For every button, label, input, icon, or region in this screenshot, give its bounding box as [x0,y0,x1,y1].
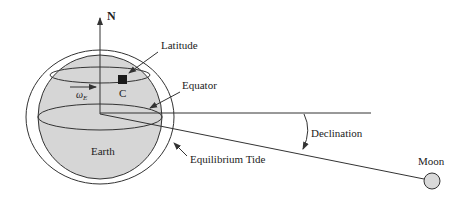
omega-subscript: E [82,94,88,102]
point-c-marker [118,75,127,84]
earth-label: Earth [91,145,115,157]
point-c-label: C [119,87,126,99]
moon [424,173,440,189]
latitude-label: Latitude [161,39,198,51]
tide-diagram: N Declination C ωE Latitude Equator Eart… [0,0,463,204]
north-label: N [107,9,116,23]
omega-symbol: ω [76,89,83,100]
declination-label: Declination [311,127,363,139]
declination-arc [303,114,308,149]
equilibrium-tide-pointer [174,143,187,156]
equator-label: Equator [182,79,217,91]
equilibrium-tide-label: Equilibrium Tide [190,153,266,165]
latitude-pointer [129,52,158,73]
moon-label: Moon [418,155,445,167]
